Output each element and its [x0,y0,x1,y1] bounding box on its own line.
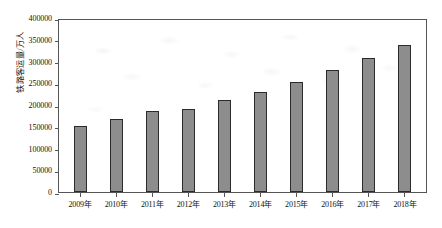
x-tick-slot [98,193,134,197]
bar [326,70,339,192]
bar [110,119,123,192]
bar [398,45,411,192]
x-tick-mark [116,193,117,197]
x-tick-slot [242,193,278,197]
bar [182,109,195,192]
x-tick-slot [206,193,242,197]
x-axis-tick-label: 2018年 [387,198,423,209]
x-tick-mark [368,193,369,197]
x-axis-ticks [58,193,427,197]
x-axis-tick-label: 2016年 [315,198,351,209]
x-tick-mark [260,193,261,197]
y-tick-label: 50000 [32,166,52,175]
bar-slot [63,20,99,192]
y-tick-label: 350000 [29,36,52,45]
bar [74,126,87,192]
bar-slot [171,20,207,192]
plot-area: 4000003500003000002500002000001500001000… [58,19,427,193]
bar [146,111,159,192]
x-tick-mark [152,193,153,197]
y-axis-title: 铁路客运量/万人 [13,7,25,117]
y-tick-label: 250000 [29,79,52,88]
y-tick-label: 0 [48,188,52,197]
y-tick-label: 200000 [29,101,52,110]
x-tick-slot [351,193,387,197]
bar [218,100,231,192]
y-tick-label: 300000 [29,58,52,67]
x-axis-tick-label: 2011年 [134,198,170,209]
y-tick-label: 150000 [29,123,52,132]
bar-slot [207,20,243,192]
x-axis-tick-label: 2013年 [206,198,242,209]
bar-slot [314,20,350,192]
x-tick-slot [315,193,351,197]
bar-slot [243,20,279,192]
bar [254,92,267,192]
x-axis-tick-label: 2014年 [242,198,278,209]
bar [290,82,303,192]
x-tick-slot [279,193,315,197]
bar-slot [99,20,135,192]
x-axis-labels: 2009年2010年2011年2012年2013年2014年2015年2016年… [58,198,427,209]
bar-chart-figure: 铁路客运量/万人 4000003500003000002500002000001… [0,0,442,228]
x-tick-slot [170,193,206,197]
x-tick-mark [188,193,189,197]
bar-slot [135,20,171,192]
y-tick-label: 100000 [29,145,52,154]
x-axis-tick-label: 2009年 [62,198,98,209]
x-tick-mark [296,193,297,197]
x-tick-slot [134,193,170,197]
x-tick-slot [387,193,423,197]
bar-slot [350,20,386,192]
bar-slot [386,20,422,192]
bar [362,58,375,192]
x-tick-mark [80,193,81,197]
y-tick-label: 400000 [29,14,52,23]
x-tick-mark [224,193,225,197]
x-tick-mark [332,193,333,197]
bar-slot [278,20,314,192]
x-axis-tick-label: 2012年 [170,198,206,209]
x-axis-tick-label: 2017年 [351,198,387,209]
bars-container [59,20,426,192]
x-axis-tick-label: 2010年 [98,198,134,209]
x-axis-tick-label: 2015年 [279,198,315,209]
x-tick-slot [62,193,98,197]
x-tick-mark [404,193,405,197]
